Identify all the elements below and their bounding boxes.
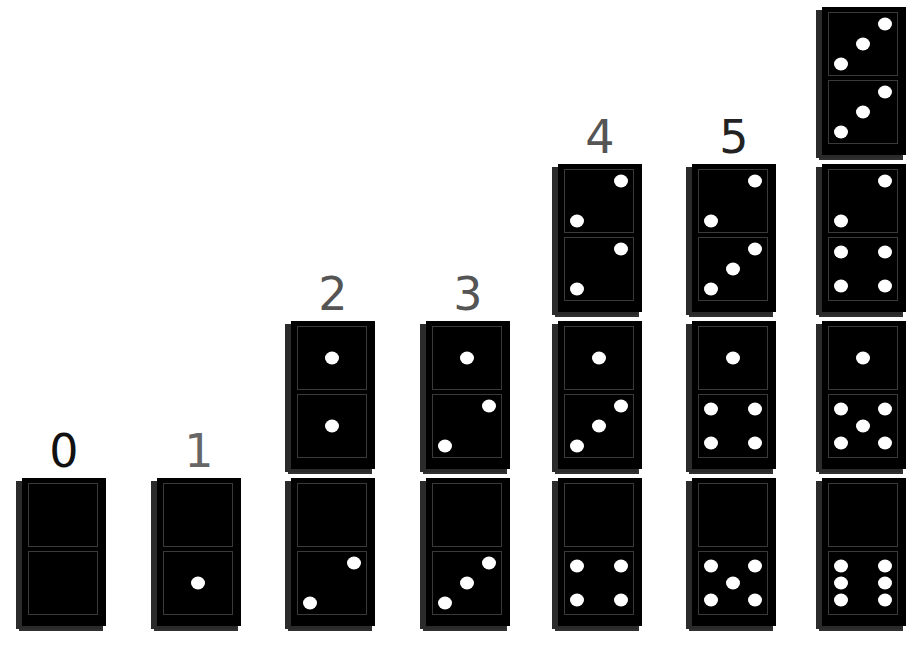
column-label: 1 [157,428,241,474]
domino-half-top [828,483,898,547]
pip-dot [704,214,718,227]
pip-dot [834,125,848,138]
domino-2-3 [692,164,776,312]
pip-dot [726,352,740,365]
domino-0-6 [822,478,906,626]
pip-dot [878,175,892,188]
pip-dot [748,437,762,450]
domino-half-top [28,483,98,547]
domino-half-top [564,326,634,390]
pip-dot [704,559,718,572]
domino-half-top [828,169,898,233]
pip-dot [570,439,584,452]
pip-dot [834,594,848,607]
domino-half-bottom [297,551,367,615]
domino-half-bottom [564,551,634,615]
column-label: 5 [692,114,776,160]
domino-half-bottom [698,551,768,615]
domino-half-top [297,326,367,390]
domino-half-bottom [28,551,98,615]
domino-1-2 [426,321,510,469]
domino-half-bottom [432,551,502,615]
pip-dot [748,559,762,572]
pip-dot [438,596,452,609]
domino-0-1 [157,478,241,626]
domino-1-3 [558,321,642,469]
domino-half-bottom [564,237,634,301]
pip-dot [704,282,718,295]
domino-half-top [698,483,768,547]
pip-dot [878,86,892,99]
pip-dot [614,243,628,256]
pip-dot [347,557,361,570]
pip-dot [325,352,339,365]
pip-dot [856,106,870,119]
domino-0-5 [692,478,776,626]
pip-dot [834,559,848,572]
pip-dot [303,596,317,609]
domino-half-bottom [297,394,367,458]
pip-dot [834,57,848,70]
pip-dot [592,420,606,433]
pip-dot [748,243,762,256]
pip-dot [191,577,205,590]
domino-1-5 [822,321,906,469]
pip-dot [570,594,584,607]
pip-dot [856,352,870,365]
domino-half-top [564,169,634,233]
pip-dot [460,352,474,365]
pip-dot [704,437,718,450]
pip-dot [460,577,474,590]
domino-half-bottom [564,394,634,458]
pip-dot [748,594,762,607]
pip-dot [570,559,584,572]
pip-dot [878,437,892,450]
domino-0-3 [426,478,510,626]
domino-half-top [432,483,502,547]
pip-dot [834,280,848,293]
pip-dot [614,175,628,188]
domino-half-bottom [698,237,768,301]
pip-dot [856,420,870,433]
column-label: 4 [558,114,642,160]
domino-half-top [698,169,768,233]
pip-dot [856,38,870,51]
pip-dot [834,577,848,590]
pip-dot [482,557,496,570]
domino-half-bottom [828,394,898,458]
domino-half-top [698,326,768,390]
pip-dot [726,263,740,276]
domino-half-bottom [828,237,898,301]
domino-half-top [297,483,367,547]
pip-dot [614,400,628,413]
pip-dot [614,559,628,572]
pip-dot [726,577,740,590]
domino-0-0 [22,478,106,626]
pip-dot [325,420,339,433]
pip-dot [878,18,892,31]
domino-half-bottom [828,80,898,144]
domino-2-2 [558,164,642,312]
pip-dot [704,402,718,415]
pip-dot [704,594,718,607]
domino-0-2 [291,478,375,626]
domino-3-3 [822,7,906,155]
column-label: 3 [426,271,510,317]
pip-dot [834,402,848,415]
domino-half-top [828,326,898,390]
pip-dot [614,594,628,607]
domino-0-4 [558,478,642,626]
domino-half-top [163,483,233,547]
pip-dot [592,352,606,365]
pip-dot [878,577,892,590]
domino-half-bottom [698,394,768,458]
pip-dot [570,282,584,295]
column-label: 2 [291,271,375,317]
pip-dot [878,280,892,293]
domino-half-top [828,12,898,76]
domino-1-4 [692,321,776,469]
column-label: 0 [22,428,106,474]
pip-dot [878,245,892,258]
domino-2-4 [822,164,906,312]
pip-dot [482,400,496,413]
